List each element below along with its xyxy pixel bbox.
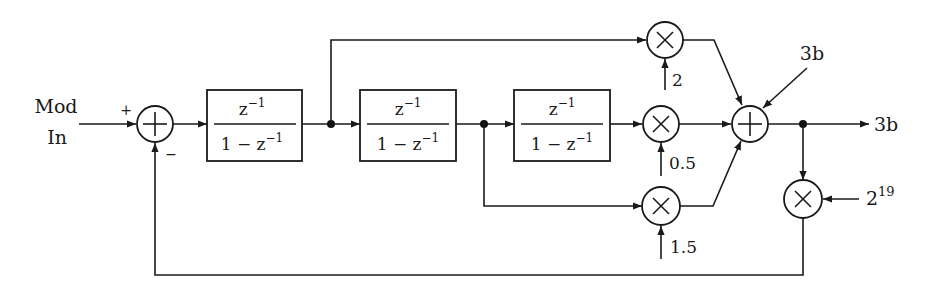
top-mult-to-sum2 [683, 40, 742, 105]
gain-label-middle: 0.5 [669, 153, 696, 173]
sum2-extra-input-label: 3b [800, 42, 824, 64]
feedback-line [155, 143, 803, 275]
minus-sign: − [165, 146, 177, 162]
bottom-mult-to-sum2 [680, 141, 741, 206]
input-label-mod: Mod [34, 95, 77, 117]
sum2-extra-input-arrow [763, 68, 807, 108]
multiplier-feedback [784, 180, 822, 218]
output-label: 3b [874, 113, 898, 135]
integrator-block-2: z−1 1 − z−1 [360, 90, 456, 161]
summing-junction-1 [137, 106, 173, 142]
multiplier-bottom [642, 187, 680, 225]
multiplier-middle [643, 106, 679, 142]
summing-junction-2 [732, 106, 768, 142]
gain-label-feedback: 219 [866, 184, 895, 209]
plus-sign: + [120, 102, 132, 118]
block-diagram: Mod In + − z−1 1 − z−1 z−1 1 − z−1 z−1 1 [0, 0, 926, 291]
gain-label-top: 2 [672, 70, 683, 90]
gain-label-bottom: 1.5 [670, 237, 697, 257]
multiplier-top [647, 22, 683, 58]
input-label-in: In [47, 126, 67, 148]
integrator-block-1: z−1 1 − z−1 [207, 90, 302, 161]
integrator-block-3: z−1 1 − z−1 [514, 90, 610, 161]
